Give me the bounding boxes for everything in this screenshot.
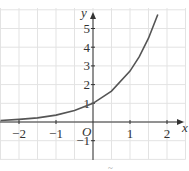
curve-series <box>1 15 158 121</box>
x-axis-label: x <box>181 120 188 135</box>
x-tick-label: −2 <box>12 126 26 141</box>
y-tick-label: 4 <box>84 40 91 55</box>
y-tick-label: 3 <box>84 58 91 73</box>
x-tick-label: −1 <box>49 126 63 141</box>
axes <box>0 12 184 160</box>
caption: ~ <box>108 163 113 171</box>
x-tick-label: 1 <box>127 126 134 141</box>
y-axis-label: y <box>79 5 87 20</box>
exponential-graph: −2−112−112345 x y O ~ <box>0 0 189 171</box>
y-tick-label: 5 <box>84 21 91 36</box>
origin-label: O <box>82 124 92 139</box>
y-tick-label: 1 <box>84 96 91 111</box>
y-axis-arrow-icon <box>90 12 96 19</box>
x-tick-label: 2 <box>164 126 171 141</box>
y-tick-label: 2 <box>84 77 91 92</box>
